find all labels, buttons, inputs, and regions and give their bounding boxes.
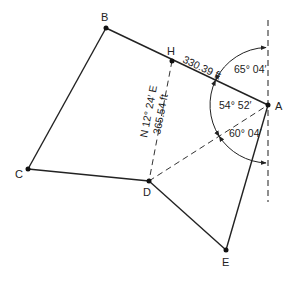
dashed-lines — [149, 61, 268, 181]
point-B — [104, 26, 109, 31]
point-D — [147, 179, 152, 184]
point-H — [170, 59, 175, 64]
label-H: H — [167, 45, 175, 57]
label-D: D — [143, 186, 151, 198]
line-DA — [149, 105, 268, 181]
point-A — [266, 103, 271, 108]
point-C — [26, 167, 31, 172]
label-B: B — [101, 11, 108, 23]
line-BC — [28, 28, 106, 169]
line-DE — [149, 181, 226, 250]
line-CD — [28, 169, 149, 181]
traverse-diagram: A B C D E H 330.39 ft N 12° 24′ E 365.54… — [0, 0, 295, 282]
angle-HAD-label: 54° 52′ — [219, 99, 251, 111]
label-C: C — [15, 168, 23, 180]
point-E — [224, 248, 229, 253]
arc-south — [219, 136, 266, 163]
angle-south-label: 60° 04′ — [229, 127, 261, 139]
label-E: E — [222, 256, 229, 268]
arc-HAD — [210, 80, 219, 136]
angle-north-label: 65° 04′ — [234, 63, 266, 75]
label-A: A — [275, 100, 283, 112]
